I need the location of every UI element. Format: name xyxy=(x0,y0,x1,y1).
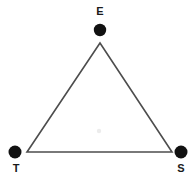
vertex-marker-t xyxy=(9,146,22,159)
triangle-diagram: E T S xyxy=(0,0,196,185)
faint-center-mark xyxy=(97,129,101,133)
vertex-label-s: S xyxy=(174,163,188,174)
vertex-label-t: T xyxy=(9,163,23,174)
vertex-label-e: E xyxy=(93,6,107,17)
vertex-marker-s xyxy=(175,146,188,159)
diagram-canvas xyxy=(0,0,196,185)
vertex-marker-e xyxy=(94,24,106,36)
